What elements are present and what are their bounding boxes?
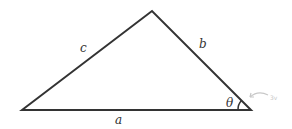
side-b-label: b	[199, 37, 207, 51]
annotation-text: 3v	[270, 94, 278, 101]
side-a-label: a	[115, 113, 122, 127]
angle-arc	[238, 101, 242, 111]
theta-label: θ	[226, 96, 234, 110]
arrow-icon	[250, 93, 268, 97]
triangle-diagram: c b a θ 3v	[0, 0, 292, 129]
side-c-label: c	[80, 41, 87, 55]
triangle	[22, 11, 251, 110]
